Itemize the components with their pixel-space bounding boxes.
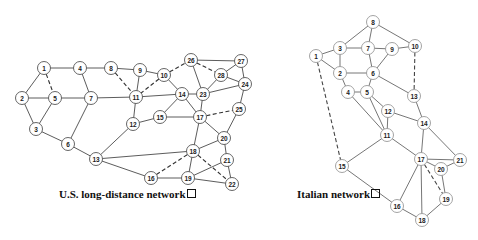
node-1: 1 <box>38 62 51 75</box>
node-label: 27 <box>237 58 245 65</box>
node-17: 17 <box>194 111 207 124</box>
node-5: 5 <box>361 86 374 99</box>
node-1: 1 <box>310 50 323 63</box>
node-19: 19 <box>440 193 453 206</box>
node-label: 10 <box>411 43 419 50</box>
node-label: 6 <box>66 141 70 148</box>
node-label: 15 <box>156 114 164 121</box>
us-long-distance-network: 1234567891011121314151617181920212223242… <box>16 54 252 191</box>
node-2: 2 <box>16 92 29 105</box>
node-27: 27 <box>235 55 248 68</box>
link-13-16 <box>96 159 151 178</box>
node-label: 7 <box>366 45 370 52</box>
node-4: 4 <box>74 62 87 75</box>
node-label: 8 <box>109 65 113 72</box>
node-20: 20 <box>435 163 448 176</box>
node-12: 12 <box>382 105 395 118</box>
node-16: 16 <box>145 172 158 185</box>
node-label: 14 <box>420 120 428 127</box>
node-8: 8 <box>367 16 380 29</box>
node-7: 7 <box>85 92 98 105</box>
link-11-15 <box>342 135 387 166</box>
node-label: 20 <box>437 166 445 173</box>
link-14-21 <box>424 123 460 160</box>
node-14: 14 <box>176 88 189 101</box>
node-label: 1 <box>42 65 46 72</box>
node-label: 11 <box>133 94 140 101</box>
link-17-18 <box>421 159 422 220</box>
link-13-18 <box>96 151 193 159</box>
node-12: 12 <box>127 118 140 131</box>
node-6: 6 <box>62 138 75 151</box>
link-6-13 <box>373 73 414 96</box>
node-label: 9 <box>138 67 142 74</box>
node-15: 15 <box>336 160 349 173</box>
node-label: 26 <box>187 57 195 64</box>
node-18: 18 <box>416 214 429 227</box>
node-23: 23 <box>197 88 210 101</box>
node-6: 6 <box>367 67 380 80</box>
node-label: 9 <box>390 46 394 53</box>
node-20: 20 <box>218 132 231 145</box>
node-10: 10 <box>409 40 422 53</box>
square-marker-icon <box>187 189 196 198</box>
node-3: 3 <box>30 123 43 136</box>
link-12-13 <box>96 124 133 159</box>
node-label: 18 <box>418 217 426 224</box>
node-24: 24 <box>239 78 252 91</box>
node-label: 22 <box>228 181 236 188</box>
node-label: 18 <box>189 148 197 155</box>
node-label: 15 <box>338 163 346 170</box>
node-label: 12 <box>129 121 137 128</box>
node-16: 16 <box>391 200 404 213</box>
node-label: 11 <box>384 132 391 139</box>
node-label: 5 <box>365 89 369 96</box>
node-label: 16 <box>393 203 401 210</box>
node-2: 2 <box>334 67 347 80</box>
node-10: 10 <box>158 69 171 82</box>
square-marker-icon <box>371 189 380 198</box>
node-label: 4 <box>78 65 82 72</box>
node-13: 13 <box>408 90 421 103</box>
node-21: 21 <box>454 154 467 167</box>
node-label: 7 <box>89 95 93 102</box>
node-14: 14 <box>418 117 431 130</box>
node-label: 13 <box>92 156 100 163</box>
italian-network-caption-text: Italian network <box>297 188 370 200</box>
node-label: 21 <box>456 157 464 164</box>
node-label: 2 <box>20 95 24 102</box>
node-label: 25 <box>235 106 243 113</box>
node-17: 17 <box>415 153 428 166</box>
node-25: 25 <box>233 103 246 116</box>
node-label: 4 <box>346 89 350 96</box>
node-13: 13 <box>90 153 103 166</box>
link-15-16 <box>342 166 397 206</box>
node-label: 17 <box>417 156 425 163</box>
node-label: 12 <box>384 108 392 115</box>
node-11: 11 <box>381 129 394 142</box>
link-17-16 <box>397 159 421 206</box>
node-7: 7 <box>362 42 375 55</box>
link-6-7 <box>68 98 91 144</box>
node-28: 28 <box>215 69 228 82</box>
node-label: 13 <box>410 93 418 100</box>
node-22: 22 <box>226 178 239 191</box>
node-15: 15 <box>154 111 167 124</box>
node-21: 21 <box>221 154 234 167</box>
node-label: 20 <box>220 135 228 142</box>
node-4: 4 <box>342 86 355 99</box>
node-label: 19 <box>442 196 450 203</box>
node-8: 8 <box>105 62 118 75</box>
node-label: 28 <box>217 72 225 79</box>
us-network-caption: U.S. long-distance network <box>59 188 196 200</box>
node-label: 19 <box>184 175 192 182</box>
us-network-caption-text: U.S. long-distance network <box>59 188 186 200</box>
node-18: 18 <box>187 145 200 158</box>
node-label: 3 <box>338 45 342 52</box>
node-11: 11 <box>130 91 143 104</box>
node-label: 24 <box>241 81 249 88</box>
node-label: 23 <box>199 91 207 98</box>
node-label: 21 <box>223 157 231 164</box>
node-label: 6 <box>371 70 375 77</box>
node-label: 16 <box>147 175 155 182</box>
